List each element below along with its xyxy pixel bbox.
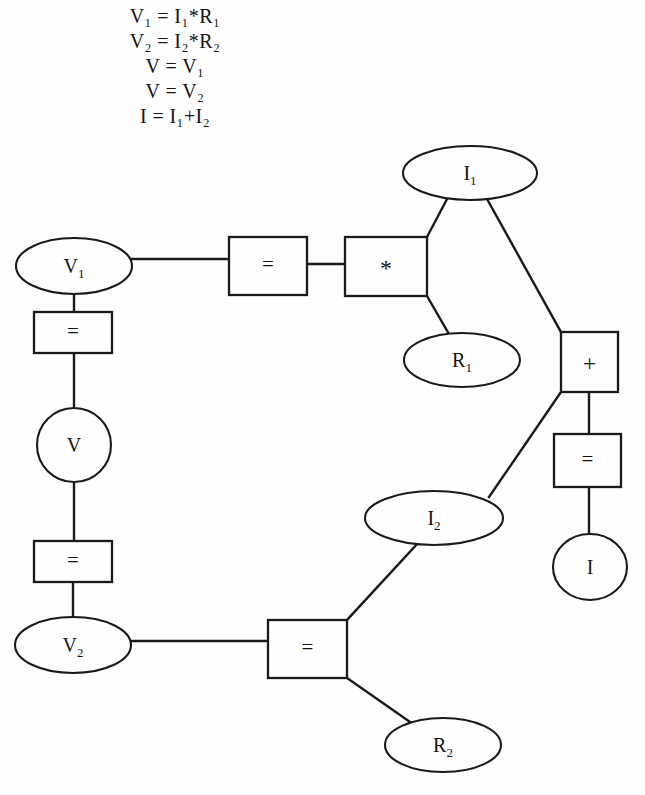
- graph-node-v1[interactable]: V1: [16, 238, 132, 294]
- edge-mul-i1: [427, 199, 447, 237]
- graph-node-eq_top[interactable]: =: [229, 237, 307, 295]
- constraint-graph: V1=V=V2=*I1R1+=II2=R2: [0, 0, 645, 795]
- diagram-page: V₁ = I₁*R₁ V₂ = I₂*R₂ V = V₁ V = V₂ I = …: [0, 0, 645, 795]
- graph-node-eq_left_top[interactable]: =: [34, 312, 112, 353]
- graph-node-mul[interactable]: *: [345, 237, 427, 296]
- node-label-eq_bottom: =: [302, 635, 314, 659]
- graph-node-i2[interactable]: I2: [365, 491, 503, 545]
- node-label-i: I: [587, 556, 594, 578]
- edge-i2-plus: [489, 392, 561, 497]
- node-label-plus: +: [583, 350, 597, 376]
- node-label-eq_top: =: [262, 252, 274, 276]
- node-label-v: V: [67, 434, 82, 456]
- graph-node-i1[interactable]: I1: [403, 146, 537, 200]
- graph-node-plus[interactable]: +: [561, 332, 618, 392]
- node-label-eq_left_top: =: [67, 319, 79, 343]
- edge-i1-plus: [487, 199, 561, 332]
- edge-mul-r1: [427, 296, 449, 334]
- graph-node-eq_bottom[interactable]: =: [268, 620, 347, 678]
- edge-i2-eq_bottom: [347, 542, 419, 620]
- node-label-mul: *: [380, 255, 392, 281]
- graph-node-eq_left_bottom[interactable]: =: [34, 541, 112, 582]
- edge-eq_bottom-r2: [347, 678, 413, 724]
- graph-node-r2[interactable]: R2: [385, 718, 501, 772]
- graph-node-eq_right[interactable]: =: [554, 434, 621, 487]
- node-label-eq_right: =: [582, 447, 594, 471]
- graph-node-i[interactable]: I: [553, 534, 627, 600]
- node-label-eq_left_bottom: =: [67, 548, 79, 572]
- graph-node-v2[interactable]: V2: [15, 617, 131, 673]
- node-layer: V1=V=V2=*I1R1+=II2=R2: [15, 146, 627, 772]
- graph-node-r1[interactable]: R1: [404, 333, 520, 387]
- graph-node-v[interactable]: V: [37, 408, 111, 482]
